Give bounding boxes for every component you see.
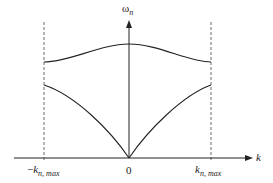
left-boundary-subscript: n, max (38, 169, 59, 178)
y-axis-subscript: n (129, 8, 133, 17)
right-boundary-label: kn, max (195, 164, 221, 178)
upper-branch-curve (44, 44, 211, 62)
lower-branch-curve-left (44, 85, 129, 158)
x-axis-label: k (256, 152, 261, 163)
lower-branch-curve-right (129, 85, 211, 158)
left-boundary-label: −kn, max (27, 164, 59, 178)
y-axis-arrow-icon (126, 20, 132, 28)
right-boundary-subscript: n, max (200, 169, 221, 178)
origin-label: 0 (126, 165, 132, 176)
y-axis-label: ωn (122, 3, 133, 17)
dispersion-diagram (0, 0, 273, 183)
x-axis-arrow-icon (245, 155, 253, 161)
